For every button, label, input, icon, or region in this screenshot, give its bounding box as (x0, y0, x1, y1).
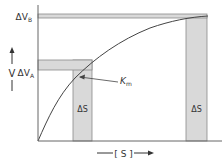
y-arrow-up-icon (10, 47, 15, 53)
delta-vb-label: ΔVB (16, 12, 32, 23)
y-axis-label: V (9, 68, 16, 79)
delta-s-right-label: ΔS (191, 105, 202, 114)
km-label: Km (120, 76, 132, 87)
diagram-canvas: V [ S ] ΔVB ΔVA ΔS ΔS Km (0, 0, 222, 164)
delta-va-band (38, 60, 92, 70)
x-axis-label: [ S ] (114, 149, 132, 159)
delta-s-left-band (73, 60, 92, 141)
delta-s-left-label: ΔS (77, 105, 88, 114)
x-arrow-right-icon (148, 151, 154, 156)
delta-s-right-band (186, 17, 207, 141)
delta-vb-band (38, 14, 207, 18)
delta-va-label: ΔVA (18, 68, 35, 79)
